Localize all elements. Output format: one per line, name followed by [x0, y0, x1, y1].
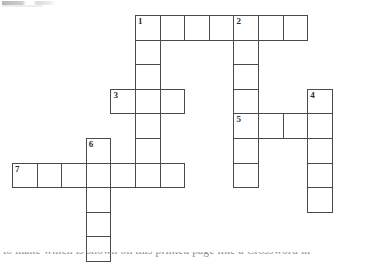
crossword-cell[interactable] [233, 64, 259, 90]
crossword-cell[interactable]: 2 [233, 15, 259, 41]
crossword-cell[interactable] [233, 40, 259, 66]
crossword-cell-number: 4 [310, 90, 315, 100]
crossword-cell[interactable]: 1 [135, 15, 161, 41]
crossword-cell[interactable] [86, 236, 112, 262]
crossword-cell[interactable] [160, 163, 186, 189]
crossword-cell[interactable]: 5 [233, 113, 259, 139]
crossword-cell-number: 1 [138, 16, 143, 26]
crossword-cell[interactable] [160, 89, 186, 115]
crossword-cell[interactable] [209, 15, 235, 41]
crossword-cell[interactable] [307, 113, 333, 139]
crossword-cell[interactable] [184, 15, 210, 41]
crossword-cell[interactable] [86, 163, 112, 189]
crossword-puzzle-page: 1234567 to make which is shown on this p… [0, 0, 386, 262]
crossword-cell[interactable] [61, 163, 87, 189]
crossword-cell[interactable] [307, 187, 333, 213]
crossword-cell[interactable] [135, 89, 161, 115]
crossword-cell[interactable] [258, 15, 284, 41]
crossword-cell[interactable] [283, 113, 309, 139]
crossword-cell[interactable]: 6 [86, 138, 112, 164]
crossword-cell[interactable] [110, 163, 136, 189]
crossword-cell[interactable] [283, 15, 309, 41]
scan-artifact-top-secondary [2, 5, 42, 7]
crossword-cell[interactable] [135, 40, 161, 66]
crossword-cell[interactable] [86, 212, 112, 238]
crossword-cell[interactable] [37, 163, 63, 189]
crossword-cell[interactable] [258, 113, 284, 139]
crossword-cell[interactable] [135, 64, 161, 90]
crossword-cell-number: 3 [113, 90, 118, 100]
crossword-cell-number: 6 [89, 139, 94, 149]
crossword-cell[interactable] [233, 138, 259, 164]
crossword-cell[interactable] [86, 187, 112, 213]
crossword-cell[interactable]: 7 [12, 163, 38, 189]
crossword-cell-number: 5 [236, 114, 241, 124]
crossword-cell[interactable] [135, 113, 161, 139]
crossword-cell[interactable] [233, 89, 259, 115]
crossword-cell[interactable] [233, 163, 259, 189]
crossword-cell[interactable] [307, 163, 333, 189]
clipped-footer-text: to make which is shown on this printed p… [0, 252, 386, 262]
crossword-cell-number: 7 [15, 164, 20, 174]
crossword-cell[interactable]: 3 [110, 89, 136, 115]
crossword-cell[interactable] [135, 138, 161, 164]
crossword-cell[interactable] [160, 15, 186, 41]
crossword-cell[interactable] [135, 163, 161, 189]
clipped-footer-text-content: to make which is shown on this printed p… [3, 252, 310, 257]
crossword-cell[interactable]: 4 [307, 89, 333, 115]
crossword-cell-number: 2 [236, 16, 241, 26]
crossword-cell[interactable] [307, 138, 333, 164]
